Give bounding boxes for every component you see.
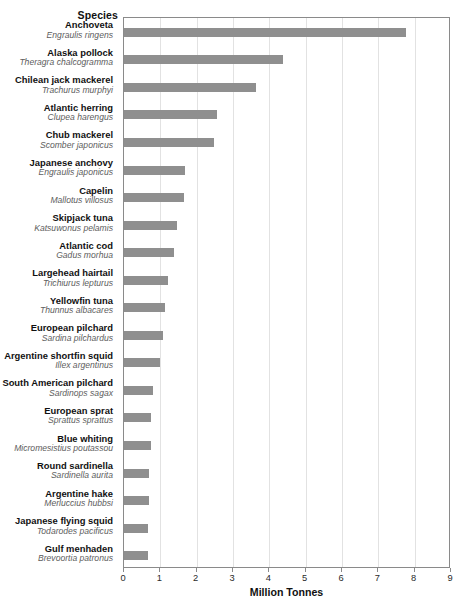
bar — [124, 221, 177, 230]
species-row-label: Yellowfin tunaThunnus albacares — [0, 296, 113, 315]
gridline — [378, 18, 379, 567]
bar — [124, 551, 148, 560]
species-scientific-name: Sprattus sprattus — [0, 416, 113, 425]
species-row-label: Japanese anchovyEngraulis japonicus — [0, 158, 113, 177]
x-axis-tick — [341, 568, 342, 572]
species-scientific-name: Micromesistius poutassou — [0, 444, 113, 453]
bar — [124, 138, 214, 147]
x-axis-tick — [232, 568, 233, 572]
species-row-label: CapelinMallotus villosus — [0, 186, 113, 205]
gridline — [197, 18, 198, 567]
species-common-name: Blue whiting — [0, 434, 113, 444]
x-axis-tick-label: 0 — [112, 573, 134, 583]
bar — [124, 386, 153, 395]
species-row-label: Round sardinellaSardinella aurita — [0, 461, 113, 480]
species-row-label: Atlantic codGadus morhua — [0, 241, 113, 260]
species-row-label: Alaska pollockTheragra chalcogramma — [0, 48, 113, 67]
species-common-name: Capelin — [0, 186, 113, 196]
species-scientific-name: Theragra chalcogramma — [0, 58, 113, 67]
species-scientific-name: Engraulis ringens — [0, 31, 113, 40]
bar — [124, 469, 149, 478]
species-scientific-name: Sardinella aurita — [0, 471, 113, 480]
species-row-label: Chub mackerelScomber japonicus — [0, 130, 113, 149]
x-axis-tick-label: 1 — [148, 573, 170, 583]
species-row-label: Gulf menhadenBrevoortia patronus — [0, 544, 113, 563]
x-axis-tick-label: 7 — [366, 573, 388, 583]
species-row-label: Argentine shortfin squidIllex argentinus — [0, 351, 113, 370]
bar — [124, 28, 406, 37]
x-axis-tick-label: 6 — [330, 573, 352, 583]
x-axis-tick-label: 2 — [185, 573, 207, 583]
bar — [124, 441, 151, 450]
bar — [124, 248, 174, 257]
x-axis-tick — [196, 568, 197, 572]
species-row-label: Argentine hakeMerluccius hubbsi — [0, 489, 113, 508]
species-common-name: South American pilchard — [0, 378, 113, 388]
species-row-label: Chilean jack mackerelTrachurus murphyi — [0, 75, 113, 94]
x-axis-tick-label: 5 — [294, 573, 316, 583]
species-scientific-name: Sardina pilchardus — [0, 334, 113, 343]
gridline — [415, 18, 416, 567]
species-scientific-name: Engraulis japonicus — [0, 168, 113, 177]
x-axis-tick — [414, 568, 415, 572]
bar — [124, 166, 185, 175]
species-scientific-name: Mallotus villosus — [0, 196, 113, 205]
species-common-name: Largehead hairtail — [0, 268, 113, 278]
gridline — [160, 18, 161, 567]
bar — [124, 496, 149, 505]
species-scientific-name: Katsuwonus pelamis — [0, 224, 113, 233]
bar — [124, 413, 151, 422]
species-row-label: Largehead hairtailTrichiurus lepturus — [0, 268, 113, 287]
species-scientific-name: Todarodes pacificus — [0, 527, 113, 536]
x-axis-tick-label: 9 — [439, 573, 461, 583]
species-common-name: European pilchard — [0, 323, 113, 333]
x-axis-tick-label: 3 — [221, 573, 243, 583]
bar — [124, 193, 184, 202]
species-scientific-name: Brevoortia patronus — [0, 554, 113, 563]
species-scientific-name: Trachurus murphyi — [0, 86, 113, 95]
species-common-name: Chilean jack mackerel — [0, 75, 113, 85]
bar — [124, 276, 168, 285]
bar — [124, 524, 148, 533]
x-axis-tick — [159, 568, 160, 572]
species-row-label: Skipjack tunaKatsuwonus pelamis — [0, 213, 113, 232]
species-scientific-name: Sardinops sagax — [0, 389, 113, 398]
species-row-label: South American pilchardSardinops sagax — [0, 378, 113, 397]
x-axis-tick-label: 4 — [257, 573, 279, 583]
x-axis: 0123456789 — [123, 568, 450, 574]
bar-chart: Species AnchovetaEngraulis ringensAlaska… — [0, 0, 461, 604]
x-axis-tick-label: 8 — [403, 573, 425, 583]
gridline — [269, 18, 270, 567]
x-axis-tick — [450, 568, 451, 572]
gridline — [342, 18, 343, 567]
x-axis-tick — [123, 568, 124, 572]
species-scientific-name: Gadus morhua — [0, 251, 113, 260]
species-row-label: Blue whitingMicromesistius poutassou — [0, 434, 113, 453]
species-row-label: European pilchardSardina pilchardus — [0, 323, 113, 342]
species-scientific-name: Illex argentinus — [0, 361, 113, 370]
species-row-label: Japanese flying squidTodarodes pacificus — [0, 516, 113, 535]
species-common-name: Anchoveta — [0, 20, 113, 30]
bar — [124, 83, 256, 92]
plot-area — [123, 17, 450, 568]
x-axis-title: Million Tonnes — [123, 586, 450, 598]
species-row-label: European spratSprattus sprattus — [0, 406, 113, 425]
species-row-label: Atlantic herringClupea harengus — [0, 103, 113, 122]
gridline — [233, 18, 234, 567]
bar — [124, 358, 160, 367]
species-scientific-name: Clupea harengus — [0, 113, 113, 122]
species-common-name: Chub mackerel — [0, 130, 113, 140]
species-common-name: Japanese flying squid — [0, 516, 113, 526]
bar — [124, 331, 163, 340]
bar — [124, 55, 283, 64]
bar — [124, 110, 217, 119]
gridline — [306, 18, 307, 567]
species-scientific-name: Merluccius hubbsi — [0, 499, 113, 508]
x-axis-tick — [305, 568, 306, 572]
species-scientific-name: Thunnus albacares — [0, 306, 113, 315]
species-row-label: AnchovetaEngraulis ringens — [0, 20, 113, 39]
species-scientific-name: Scomber japonicus — [0, 141, 113, 150]
species-common-name: Skipjack tuna — [0, 213, 113, 223]
x-axis-tick — [268, 568, 269, 572]
x-axis-tick — [377, 568, 378, 572]
